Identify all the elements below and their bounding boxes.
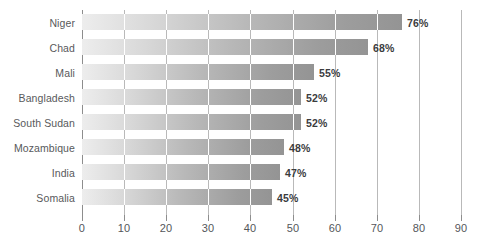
bar-gridline-segment (124, 189, 125, 205)
value-label: 52% (306, 117, 327, 129)
x-tick-label-0: 0 (62, 222, 102, 234)
value-label: 76% (407, 17, 428, 29)
x-tick-60 (335, 215, 336, 221)
bar-gridline-segment (293, 89, 294, 105)
bar-gridline-segment (208, 114, 209, 130)
x-tick-90 (461, 215, 462, 221)
bar-gridline-segment (250, 39, 251, 55)
x-tick-label-30: 30 (188, 222, 228, 234)
x-tick-70 (377, 215, 378, 221)
value-label: 68% (373, 42, 394, 54)
bar-gridline-segment (293, 64, 294, 80)
bar-gridline-segment (124, 139, 125, 155)
bar-gridline-segment (166, 64, 167, 80)
x-tick-label-90: 90 (441, 222, 481, 234)
bar-gridline-segment (166, 164, 167, 180)
bar-gridline-segment (335, 14, 336, 30)
bar (82, 39, 368, 55)
bar-gridline-segment (124, 164, 125, 180)
x-tick-30 (208, 215, 209, 221)
value-label: 47% (285, 167, 306, 179)
bar-gridline-segment (208, 89, 209, 105)
bar-gridline-segment (250, 139, 251, 155)
value-label: 48% (289, 142, 310, 154)
bar-gridline-segment (124, 14, 125, 30)
bar-gridline-segment (166, 139, 167, 155)
category-label: Somalia (0, 192, 75, 204)
x-tick-40 (250, 215, 251, 221)
bar-gridline-segment (124, 89, 125, 105)
value-label: 52% (306, 92, 327, 104)
value-label: 45% (277, 192, 298, 204)
bar (82, 114, 301, 130)
bar-gridline-segment (250, 64, 251, 80)
bar (82, 139, 284, 155)
bar-gridline-segment (377, 14, 378, 30)
bar-gridline-segment (166, 189, 167, 205)
value-label: 55% (319, 67, 340, 79)
category-label: Chad (0, 42, 75, 54)
x-tick-10 (124, 215, 125, 221)
bar-gridline-segment (250, 14, 251, 30)
bar-gridline-segment (166, 14, 167, 30)
bar-gridline-segment (166, 114, 167, 130)
bar (82, 14, 402, 30)
bar-gridline-segment (208, 164, 209, 180)
bar-gridline-segment (208, 139, 209, 155)
bar-gridline-segment (250, 89, 251, 105)
x-tick-label-50: 50 (273, 222, 313, 234)
bar-gridline-segment (250, 114, 251, 130)
gridline-70 (377, 10, 378, 215)
x-tick-label-20: 20 (146, 222, 186, 234)
bar-gridline-segment (166, 89, 167, 105)
bar-gridline-segment (124, 39, 125, 55)
x-tick-label-70: 70 (357, 222, 397, 234)
bar-gridline-segment (293, 39, 294, 55)
bar-gridline-segment (166, 39, 167, 55)
bar-chart: NigerChadMaliBangladeshSouth SudanMozamb… (0, 0, 490, 250)
category-label: Niger (0, 17, 75, 29)
bar-gridline-segment (335, 39, 336, 55)
category-label: Mozambique (0, 142, 75, 154)
bar-gridline-segment (208, 14, 209, 30)
bar-gridline-segment (250, 164, 251, 180)
bar-gridline-segment (208, 39, 209, 55)
x-tick-0 (82, 215, 83, 221)
bar-gridline-segment (124, 64, 125, 80)
bar (82, 164, 280, 180)
x-tick-label-40: 40 (230, 222, 270, 234)
category-label: Mali (0, 67, 75, 79)
bar (82, 64, 314, 80)
x-tick-label-80: 80 (399, 222, 439, 234)
category-label: South Sudan (0, 117, 75, 129)
bar-gridline-segment (293, 114, 294, 130)
bar-gridline-segment (293, 14, 294, 30)
bar-gridline-segment (208, 189, 209, 205)
x-tick-50 (293, 215, 294, 221)
gridline-90 (461, 10, 462, 215)
bar-gridline-segment (124, 114, 125, 130)
gridline-80 (419, 10, 420, 215)
bar-gridline-segment (250, 189, 251, 205)
x-tick-label-60: 60 (315, 222, 355, 234)
bar-gridline-segment (208, 64, 209, 80)
x-tick-80 (419, 215, 420, 221)
category-label: Bangladesh (0, 92, 75, 104)
bar (82, 189, 272, 205)
plot-area: NigerChadMaliBangladeshSouth SudanMozamb… (0, 0, 490, 250)
bar (82, 89, 301, 105)
x-tick-label-10: 10 (104, 222, 144, 234)
x-tick-20 (166, 215, 167, 221)
category-label: India (0, 167, 75, 179)
